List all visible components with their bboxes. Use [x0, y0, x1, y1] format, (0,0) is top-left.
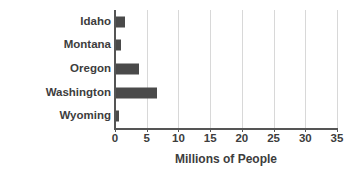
y-axis-label-wyoming: Wyoming — [1, 110, 111, 122]
bar-chart: IdahoMontanaOregonWashingtonWyoming 0510… — [0, 0, 356, 178]
plot-area — [115, 10, 337, 128]
x-axis-label-30: 30 — [299, 133, 312, 145]
x-axis-label-5: 5 — [144, 133, 150, 145]
bar-row — [115, 81, 337, 105]
x-axis-title: Millions of People — [115, 152, 337, 166]
x-axis-label-10: 10 — [172, 133, 185, 145]
bar-row — [115, 34, 337, 58]
y-axis-category-labels: IdahoMontanaOregonWashingtonWyoming — [0, 10, 111, 128]
bar-idaho — [115, 16, 125, 27]
bar-row — [115, 10, 337, 34]
bar-row — [115, 57, 337, 81]
y-axis-label-idaho: Idaho — [1, 16, 111, 28]
bar-oregon — [115, 63, 139, 74]
bar-washington — [115, 87, 157, 98]
y-axis-line — [114, 10, 116, 130]
bar-row — [115, 104, 337, 128]
x-axis-label-35: 35 — [331, 133, 344, 145]
x-axis-label-0: 0 — [112, 133, 118, 145]
y-axis-label-montana: Montana — [1, 39, 111, 51]
x-axis-label-25: 25 — [267, 133, 280, 145]
x-axis-label-15: 15 — [204, 133, 217, 145]
y-axis-label-oregon: Oregon — [1, 63, 111, 75]
gridline-35 — [337, 10, 338, 128]
x-axis-label-20: 20 — [235, 133, 248, 145]
y-axis-label-washington: Washington — [1, 87, 111, 99]
